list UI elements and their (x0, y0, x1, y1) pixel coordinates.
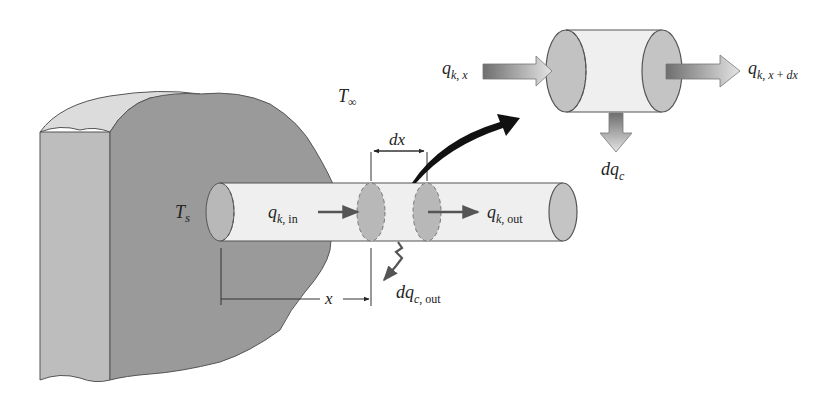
dq-conv-out-label: dqc, out (396, 282, 441, 306)
q-x-block-arrow (483, 56, 552, 86)
ambient-temp-label: T∞ (338, 86, 357, 109)
rod-base-end (206, 183, 234, 241)
zoom-curved-arrow (412, 114, 520, 183)
convection-wavy-arrow (384, 242, 402, 280)
wall-side-face (40, 132, 110, 382)
control-volume-inset (483, 30, 740, 152)
fin-heat-transfer-diagram: T∞ Ts qk, in qk, out dqc, out dx x qk, x… (0, 0, 836, 394)
q-x-label: qk, x (442, 58, 468, 82)
rod-tip-end (549, 183, 577, 241)
x-label: x (324, 289, 333, 308)
dq-c-label: dqc (601, 159, 625, 183)
dx-label: dx (389, 130, 406, 149)
slice-section-x (357, 183, 385, 241)
q-x-dx-label: qk, x + dx (748, 58, 798, 82)
dq-c-block-arrow (600, 113, 632, 152)
